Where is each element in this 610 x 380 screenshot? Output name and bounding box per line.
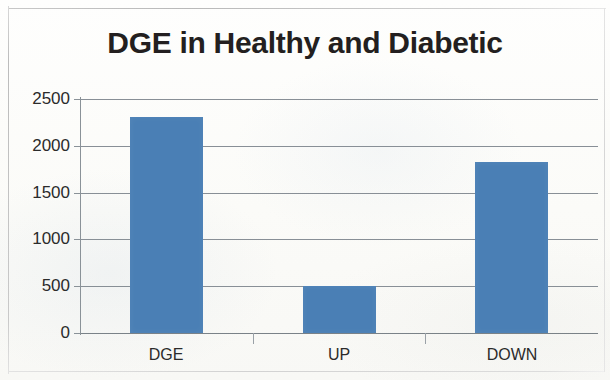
bar-down (475, 162, 548, 333)
y-axis-tick-label: 2000 (10, 136, 70, 156)
y-axis-tick (74, 99, 81, 100)
page-frame-right-border (604, 8, 605, 372)
x-axis-label-up: UP (269, 346, 409, 364)
y-axis-tick-label: 0 (10, 323, 70, 343)
chart-canvas: DGE in Healthy and Diabetic 050010001500… (0, 0, 610, 380)
y-axis-tick (74, 239, 81, 240)
gridline (80, 333, 598, 334)
page-frame-top-border (8, 8, 606, 9)
y-axis-labels: 05001000150020002500 (4, 0, 70, 380)
bar-up (303, 286, 376, 333)
x-axis-category-tick (253, 333, 254, 344)
y-axis-tick-label: 500 (10, 276, 70, 296)
x-axis-category-tick (425, 333, 426, 344)
y-axis-tick-label: 1500 (10, 183, 70, 203)
y-axis-tick (74, 146, 81, 147)
bar-dge (130, 117, 203, 333)
chart-title: DGE in Healthy and Diabetic (0, 26, 610, 60)
x-axis-label-down: DOWN (442, 346, 582, 364)
y-axis-tick (74, 286, 81, 287)
gridline (80, 99, 598, 100)
y-axis-tick-label: 2500 (10, 89, 70, 109)
y-axis-tick (74, 193, 81, 194)
x-axis-label-dge: DGE (96, 346, 236, 364)
y-axis-tick-label: 1000 (10, 229, 70, 249)
y-axis-tick (74, 333, 81, 334)
page-frame-bottom-border (8, 371, 604, 372)
